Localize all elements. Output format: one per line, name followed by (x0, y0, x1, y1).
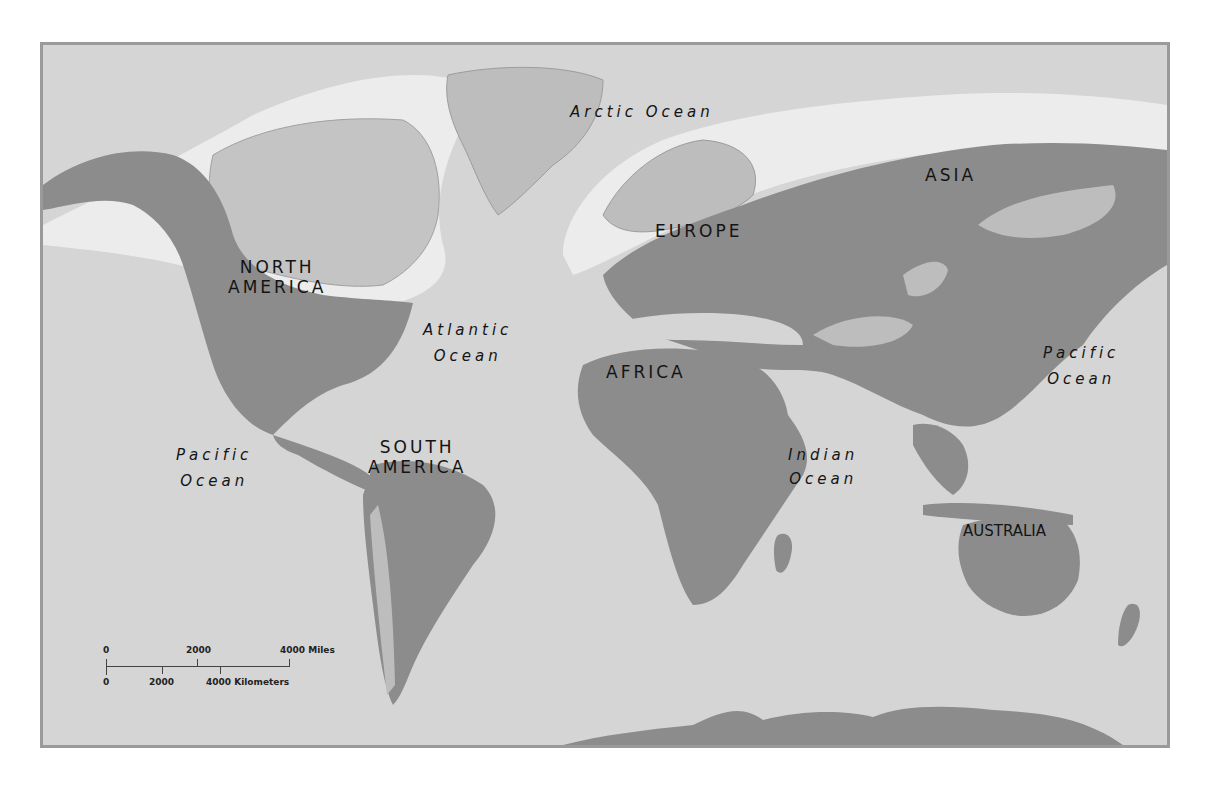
label-line: Pacific (176, 443, 252, 469)
africa (578, 348, 807, 605)
label-pacific-ocean-west: Pacific Ocean (176, 443, 252, 494)
scale-km-0: 0 (103, 677, 109, 687)
label-asia: ASIA (925, 165, 976, 185)
scale-bar: 0 2000 4000 Miles 0 2000 4000 Kilometers (103, 645, 303, 705)
scale-tick (197, 659, 198, 667)
label-line: EUROPE (655, 221, 742, 241)
antarctica (563, 707, 1123, 745)
new-zealand (1118, 604, 1140, 647)
label-line: Ocean (176, 469, 252, 495)
scale-tick (220, 666, 221, 674)
greenland (447, 67, 603, 215)
scale-km-4000: 4000 Kilometers (206, 677, 289, 687)
label-atlantic-ocean: Atlantic Ocean (423, 318, 512, 369)
label-line: Atlantic (423, 318, 512, 344)
label-line: SOUTH (368, 437, 466, 457)
scale-tick (162, 666, 163, 674)
label-line: AFRICA (606, 362, 686, 382)
label-arctic-ocean: Arctic Ocean (570, 103, 714, 121)
label-line: Ocean (788, 467, 858, 491)
label-africa: AFRICA (606, 362, 686, 382)
label-south-america: SOUTH AMERICA (368, 437, 466, 478)
scale-miles-4000: 4000 Miles (280, 645, 335, 655)
label-line: Indian (788, 443, 858, 467)
scale-tick (289, 659, 290, 667)
label-line: Ocean (1043, 367, 1119, 393)
scale-km-2000: 2000 (149, 677, 174, 687)
label-line: NORTH (228, 257, 326, 277)
central-america (273, 435, 379, 495)
label-line: AUSTRALIA (963, 522, 1046, 540)
scale-tick (106, 659, 107, 675)
southeast-asia (913, 424, 968, 495)
scale-miles-0: 0 (103, 645, 109, 655)
label-north-america: NORTH AMERICA (228, 257, 326, 298)
label-line: Arctic Ocean (570, 103, 714, 121)
label-europe: EUROPE (655, 221, 742, 241)
label-line: Ocean (423, 344, 512, 370)
madagascar (774, 534, 792, 573)
label-line: AMERICA (228, 277, 326, 297)
label-line: ASIA (925, 165, 976, 185)
map-canvas (43, 45, 1167, 745)
label-pacific-ocean-east: Pacific Ocean (1043, 341, 1119, 392)
label-line: AMERICA (368, 457, 466, 477)
label-line: Pacific (1043, 341, 1119, 367)
world-map: NORTH AMERICA SOUTH AMERICA EUROPE AFRIC… (40, 42, 1170, 748)
label-indian-ocean: Indian Ocean (788, 443, 858, 491)
label-australia: AUSTRALIA (963, 522, 1046, 540)
scale-miles-2000: 2000 (186, 645, 211, 655)
